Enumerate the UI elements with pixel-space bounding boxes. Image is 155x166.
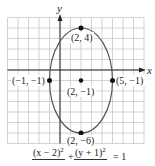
point-center [79, 78, 83, 82]
equation-plus: + [68, 151, 74, 162]
ellipse-equation: (x − 2)2 + (y + 1)2 = 1 [0, 146, 155, 166]
point-left [47, 78, 52, 83]
ellipse-graph: (2, 4) (−1, −1) (2, −1) (5, −1) (2, −6) … [0, 0, 155, 146]
label-left: (−1, −1) [12, 75, 45, 87]
equation-right-numerator: (y + 1)2 [74, 146, 107, 160]
label-right: (5, −1) [116, 75, 143, 87]
y-axis-label: y [56, 2, 62, 14]
x-axis-arrow-icon [139, 68, 146, 73]
label-center: (2, −1) [67, 86, 94, 98]
equation-left-numerator: (x − 2)2 [32, 146, 65, 160]
label-top: (2, 4) [71, 32, 93, 44]
point-top [79, 26, 84, 31]
point-right [110, 78, 115, 83]
label-bottom: (2, −6) [67, 135, 94, 146]
equation-equals: = 1 [113, 151, 126, 162]
labels: (2, 4) (−1, −1) (2, −1) (5, −1) (2, −6) … [11, 2, 152, 146]
x-axis-label: x [146, 64, 152, 76]
